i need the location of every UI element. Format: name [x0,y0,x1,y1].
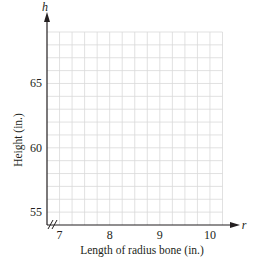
grid-lines [47,32,223,225]
x-tick-label: 10 [204,228,216,242]
x-variable-label: r [242,218,247,232]
x-axis-title: Length of radius bone (in.) [80,244,204,257]
y-tick-label: 55 [30,205,42,219]
y-tick-label: 60 [30,141,42,155]
chart-canvas: 78910556065 h r Length of radius bone (i… [0,0,259,267]
x-tick-label: 8 [107,228,113,242]
x-tick-label: 7 [57,228,63,242]
y-tick-label: 65 [30,76,42,90]
tick-labels: 78910556065 [30,76,216,242]
y-axis-title: Height (in.) [12,113,25,167]
x-axis-arrow-icon [230,222,240,228]
y-variable-label: h [42,0,48,14]
x-tick-label: 9 [157,228,163,242]
